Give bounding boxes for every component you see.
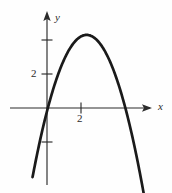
x-axis-label: x [158, 101, 163, 112]
y-axis-label: y [55, 12, 60, 23]
x-tick-label-2: 2 [77, 113, 83, 124]
parabola-curve [33, 35, 146, 193]
parabola-figure: y x 2 2 [0, 0, 172, 193]
graph-canvas [0, 0, 172, 193]
y-tick-label-2: 2 [31, 68, 37, 79]
